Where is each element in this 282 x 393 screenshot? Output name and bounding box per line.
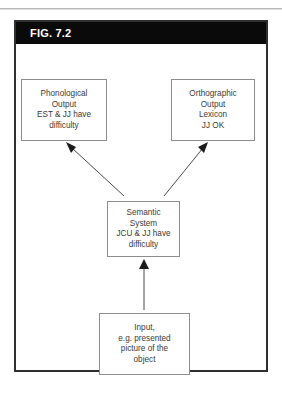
node-semantic-system: Semantic System JCU & JJ have difficulty <box>107 201 180 257</box>
node-phonological-output: Phonological Output EST & JJ have diffic… <box>21 79 107 141</box>
node-orthographic-line-3: Lexicon <box>199 110 227 121</box>
page-top-rule-secondary <box>0 9 282 10</box>
node-input-line-4: object <box>134 355 156 366</box>
node-orthographic-line-2: Output <box>201 100 226 111</box>
arrow-semantic-to-phonological <box>66 142 124 196</box>
node-phonological-line-4: difficulty <box>49 121 78 132</box>
node-semantic-line-1: Semantic <box>126 208 160 219</box>
node-phonological-line-2: Output <box>52 100 77 111</box>
node-semantic-line-4: difficulty <box>129 240 158 251</box>
node-input-line-3: picture of the <box>121 344 168 355</box>
node-input-line-2: e.g. presented <box>118 334 170 345</box>
node-input-line-1: Input, <box>134 323 155 334</box>
node-orthographic-line-1: Orthographic <box>189 89 236 100</box>
node-phonological-line-3: EST & JJ have <box>37 110 91 121</box>
node-semantic-line-2: System <box>130 219 157 230</box>
node-phonological-line-1: Phonological <box>41 89 88 100</box>
diagram-canvas: Phonological Output EST & JJ have diffic… <box>16 44 266 370</box>
node-orthographic-line-4: JJ OK <box>202 121 224 132</box>
figure-title: FIG. 7.2 <box>30 26 71 40</box>
node-orthographic-output-lexicon: Orthographic Output Lexicon JJ OK <box>171 79 255 141</box>
figure-header-bar: FIG. 7.2 <box>16 22 266 44</box>
node-input: Input, e.g. presented picture of the obj… <box>99 313 190 375</box>
figure-frame: FIG. 7.2 Phonological Output EST & JJ ha… <box>14 20 268 372</box>
node-semantic-line-3: JCU & JJ have <box>116 229 170 240</box>
arrow-input-to-semantic <box>139 259 149 310</box>
arrow-semantic-to-orthographic <box>164 142 208 196</box>
